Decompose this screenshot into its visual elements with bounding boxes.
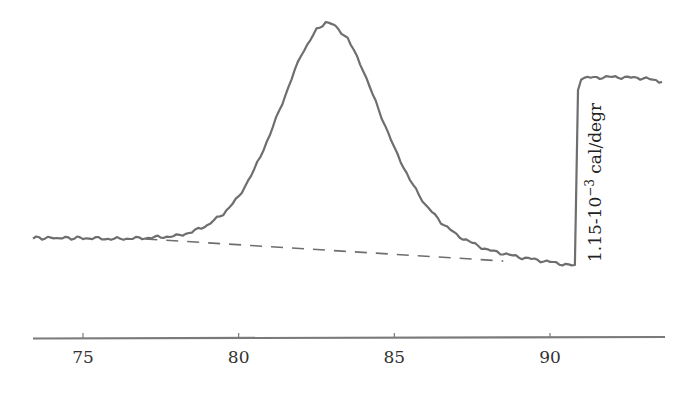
dashed-baseline	[145, 239, 503, 261]
scale-unit: cal/degr	[585, 102, 605, 179]
heat-capacity-curve	[33, 22, 662, 265]
x-tick-label: 75	[72, 347, 94, 367]
scale-annotation: 1.15-10−3 cal/degr	[583, 102, 605, 262]
x-tick-label: 80	[228, 347, 250, 367]
scale-base: 1.15-10	[585, 197, 605, 262]
x-axis: 75808590	[33, 333, 665, 367]
x-tick-label: 90	[539, 347, 561, 367]
x-axis-line	[33, 337, 665, 339]
scale-exponent: −3	[583, 179, 597, 197]
x-tick-label: 85	[384, 347, 406, 367]
dsc-chart: 75808590 1.15-10−3 cal/degr	[0, 0, 696, 397]
